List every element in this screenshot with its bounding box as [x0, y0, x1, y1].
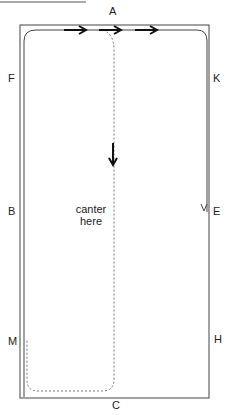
- marker-b: B: [8, 206, 15, 217]
- arena-diagram: [0, 0, 234, 415]
- arrow-right-icon: [135, 26, 157, 34]
- marker-f: F: [8, 73, 15, 84]
- canter-note-line2: here: [70, 215, 112, 227]
- arrow-down-icon: [109, 143, 117, 165]
- track-path: [24, 30, 207, 397]
- arrow-right-icon: [64, 26, 86, 34]
- marker-m: M: [8, 336, 17, 347]
- marker-k: K: [213, 73, 220, 84]
- canter-note-line1: canter: [70, 203, 112, 215]
- marker-a: A: [109, 6, 116, 17]
- marker-e: E: [213, 206, 220, 217]
- marker-h: H: [214, 334, 222, 345]
- arrow-right-icon: [99, 26, 121, 34]
- marker-c: C: [112, 400, 120, 411]
- canter-note: canter here: [70, 203, 112, 227]
- arrow-down-small-icon: [201, 204, 207, 211]
